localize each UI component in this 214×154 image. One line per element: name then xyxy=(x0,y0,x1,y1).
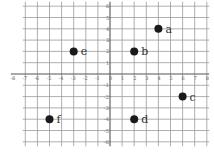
y-tick-label: -2 xyxy=(104,94,109,100)
x-tick-label: 8 xyxy=(206,75,209,81)
x-tick-label: 5 xyxy=(170,75,173,81)
y-tick-label: 6 xyxy=(106,3,109,9)
y-tick-label: -6 xyxy=(104,139,109,145)
x-tick-label: -7 xyxy=(22,75,27,81)
point-label-a: a xyxy=(165,23,172,36)
point-c xyxy=(179,93,187,101)
y-tick-label: 4 xyxy=(106,26,109,32)
axes xyxy=(11,2,209,147)
x-tick-label: -8 xyxy=(10,75,15,81)
x-tick-label: 4 xyxy=(157,75,160,81)
point-b xyxy=(130,47,138,55)
x-tick-label: 1 xyxy=(121,75,124,81)
point-f xyxy=(46,115,54,123)
point-d xyxy=(130,115,138,123)
point-label-e: e xyxy=(81,45,88,58)
x-tick-label: -5 xyxy=(47,75,52,81)
point-label-c: c xyxy=(190,91,196,104)
x-tick-label: 2 xyxy=(133,75,136,81)
y-tick-label: -1 xyxy=(104,82,109,88)
x-tick-label: -2 xyxy=(83,75,88,81)
point-e xyxy=(70,47,78,55)
point-label-d: d xyxy=(141,113,148,126)
x-tick-label: 6 xyxy=(182,75,185,81)
point-label-f: f xyxy=(57,113,62,126)
x-tick-label: -4 xyxy=(59,75,64,81)
point-a xyxy=(154,25,162,33)
y-tick-label: -4 xyxy=(104,116,109,122)
point-label-b: b xyxy=(141,45,148,58)
y-tick-label: 5 xyxy=(106,15,109,21)
y-tick-label: -3 xyxy=(104,105,109,111)
x-tick-label: -1 xyxy=(95,75,100,81)
x-tick-label: 7 xyxy=(194,75,197,81)
x-tick-label: -6 xyxy=(34,75,39,81)
y-tick-label: 2 xyxy=(106,48,109,54)
y-tick-label: 1 xyxy=(106,60,109,66)
x-tick-label: 3 xyxy=(145,75,148,81)
y-tick-label: 3 xyxy=(106,37,109,43)
coordinate-plane: -8-7-6-5-4-3-2-1012345678-6-5-4-3-2-1123… xyxy=(0,0,214,154)
x-tick-label: 0 xyxy=(109,75,112,81)
y-tick-label: -5 xyxy=(104,128,109,134)
x-tick-label: -3 xyxy=(71,75,76,81)
